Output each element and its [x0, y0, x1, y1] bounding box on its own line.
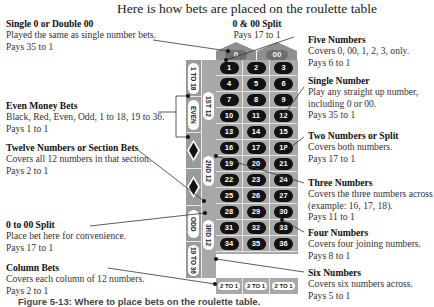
number-chip-label: 29: [247, 206, 266, 218]
number-chip-label: 31: [220, 222, 239, 234]
annotation-text: Black, Red, Even, Odd, 1 to 18, 19 to 36…: [6, 111, 165, 122]
bet-spot-black[interactable]: [186, 169, 201, 206]
bet-spot-number[interactable]: 19: [216, 156, 243, 172]
bet-spot-number[interactable]: 25: [216, 188, 243, 204]
bet-spot-number[interactable]: 12: [270, 108, 297, 124]
number-chip-label: 32: [247, 222, 266, 234]
bet-spot-1st-12[interactable]: 1ST 12: [202, 60, 216, 124]
number-chip-label: 18: [274, 142, 293, 154]
number-chip-label: 4: [220, 78, 239, 90]
bet-spot-number[interactable]: 22: [216, 172, 243, 188]
number-chip-label: 11: [247, 110, 266, 122]
bet-spot-number[interactable]: 8: [243, 92, 270, 108]
number-chip-label: 5: [247, 78, 266, 90]
number-chip-label: 21: [274, 158, 293, 170]
bet-spot-number[interactable]: 34: [216, 236, 243, 252]
annotation-text: Covers each column of 12 numbers.: [6, 273, 145, 284]
bet-spot-number[interactable]: 11: [243, 108, 270, 124]
bet-spot-number[interactable]: 20: [243, 156, 270, 172]
bet-spot-19-to-36[interactable]: 19 TO 36: [186, 242, 201, 278]
figure-caption: Figure 5-13: Where to place bets on the …: [18, 296, 260, 307]
annotation-heading: Single Number: [308, 75, 418, 86]
bet-spot-number[interactable]: 26: [243, 188, 270, 204]
annotation-single-zero: Single 0 or Double 00 Played the same as…: [6, 18, 156, 52]
label-19-to-36: 19 TO 36: [188, 245, 199, 276]
annotation-text: Pays 1 to 1: [6, 123, 165, 134]
annotation-zero-double-zero-split: 0 to 00 Split Place bet here for conveni…: [6, 219, 126, 253]
bet-spot-odd[interactable]: ODD: [186, 206, 201, 242]
bet-spot-even[interactable]: EVEN: [186, 97, 201, 133]
annotation-text: Covers both numbers.: [308, 141, 399, 152]
bet-spot-number[interactable]: 7: [216, 92, 243, 108]
number-chip-label: 1: [220, 62, 239, 74]
number-chip-label: 6: [274, 78, 293, 90]
bet-spot-1-to-18[interactable]: 1 TO 18: [186, 60, 201, 97]
number-chip-label: 28: [220, 206, 239, 218]
label-3rd-12: 3RD 12: [203, 220, 214, 250]
bet-spot-number[interactable]: 14: [243, 124, 270, 140]
number-chip-label: 16: [220, 142, 239, 154]
bet-spot-column-1[interactable]: 2 TO 1: [216, 278, 243, 294]
number-chip-label: 25: [220, 190, 239, 202]
bet-spot-2nd-12[interactable]: 2ND 12: [202, 124, 216, 188]
bet-spot-number[interactable]: 36: [270, 236, 297, 252]
annotation-text: Covers six numbers across.: [308, 278, 413, 289]
annotation-text: Pays 2 to 1: [6, 285, 145, 296]
bet-spot-number[interactable]: 10: [216, 108, 243, 124]
bet-spot-number[interactable]: 24: [270, 172, 297, 188]
label-2nd-12: 2ND 12: [203, 156, 214, 186]
bet-spot-number[interactable]: 30: [270, 204, 297, 220]
bet-spot-number[interactable]: 5: [243, 76, 270, 92]
bet-spot-number[interactable]: 17: [243, 140, 270, 156]
bet-spot-3rd-12[interactable]: 3RD 12: [202, 188, 216, 252]
bet-spot-number[interactable]: 6: [270, 76, 297, 92]
annotation-text: (example: 16, 17, 18).: [308, 200, 433, 211]
annotation-heading: Three Numbers: [308, 177, 433, 188]
column-label: 2 TO 1: [218, 282, 240, 290]
bet-spot-number[interactable]: 27: [270, 188, 297, 204]
number-chip-label: 17: [247, 142, 266, 154]
bet-spot-number[interactable]: 23: [243, 172, 270, 188]
bet-spot-number[interactable]: 2: [243, 60, 270, 76]
bet-spot-number[interactable]: 31: [216, 220, 243, 236]
annotation-text: Play any straight up number,: [308, 86, 418, 97]
number-chip-label: 14: [247, 126, 266, 138]
bet-spot-number[interactable]: 32: [243, 220, 270, 236]
bet-spot-number[interactable]: 33: [270, 220, 297, 236]
bet-spot-column-2[interactable]: 2 TO 1: [243, 278, 270, 294]
number-chip-label: 35: [247, 238, 266, 250]
number-chip-label: 20: [247, 158, 266, 170]
number-chip-label: 13: [220, 126, 239, 138]
label-even: EVEN: [188, 100, 199, 130]
bet-spot-number[interactable]: 29: [243, 204, 270, 220]
bet-spot-number[interactable]: 16: [216, 140, 243, 156]
number-chip-label: 36: [274, 238, 293, 250]
bet-spot-number[interactable]: 28: [216, 204, 243, 220]
bet-spot-number[interactable]: 3: [270, 60, 297, 76]
bet-spot-number[interactable]: 1: [216, 60, 243, 76]
black-diamond-icon: [187, 176, 200, 198]
column-label: 2 TO 1: [245, 282, 267, 290]
annotation-heading: Five Numbers: [308, 34, 409, 45]
annotation-text: Covers the three numbers across: [308, 188, 433, 199]
label-1st-12: 1ST 12: [203, 92, 214, 120]
number-chip-label: 10: [220, 110, 239, 122]
zero-row: 0 00: [216, 42, 297, 62]
bet-spot-number[interactable]: 21: [270, 156, 297, 172]
bet-spot-number[interactable]: 18: [270, 140, 297, 156]
annotation-heading: Twelve Numbers or Section Bets: [6, 142, 151, 153]
label-odd: ODD: [188, 210, 199, 238]
bet-spot-number[interactable]: 4: [216, 76, 243, 92]
bet-spot-number[interactable]: 35: [243, 236, 270, 252]
number-chip-label: 33: [274, 222, 293, 234]
bet-spot-number[interactable]: 9: [270, 92, 297, 108]
bet-spot-0[interactable]: 0: [216, 42, 256, 62]
bet-spot-number[interactable]: 13: [216, 124, 243, 140]
bet-spot-column-3[interactable]: 2 TO 1: [270, 278, 297, 294]
bet-spot-00[interactable]: 00: [257, 42, 297, 62]
label-1-to-18: 1 TO 18: [188, 63, 199, 94]
bet-spot-red[interactable]: [186, 133, 201, 169]
red-diamond-icon: [187, 140, 200, 162]
number-chip-label: 23: [247, 174, 266, 186]
bet-spot-number[interactable]: 15: [270, 124, 297, 140]
